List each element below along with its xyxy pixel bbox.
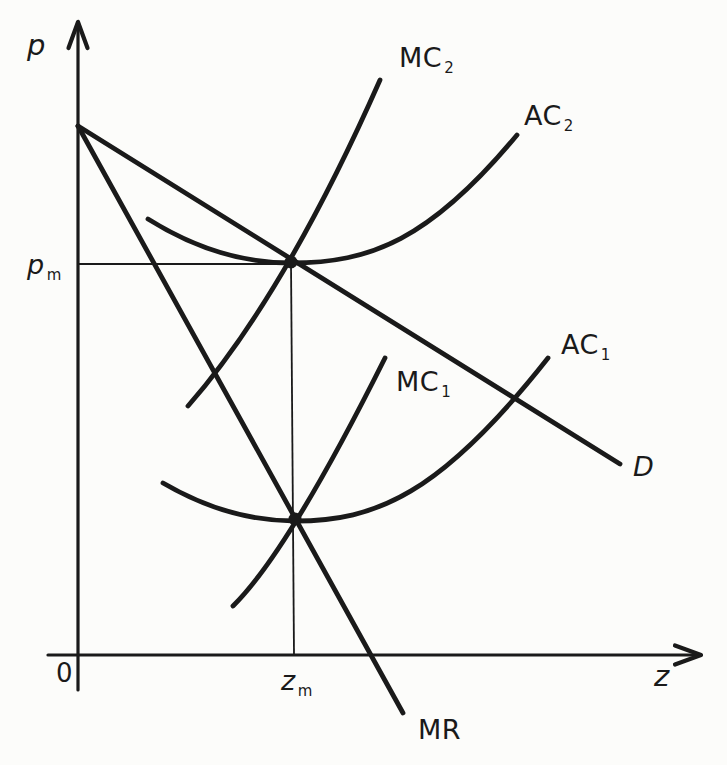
ac1-curve-label: AC1 [561,331,610,363]
curve-d [78,126,620,464]
pm-tick-label: pm [27,251,61,283]
mr-curve-label: MR [418,716,461,743]
origin-label: 0 [56,660,73,686]
guide-zm-quantity-line [291,263,294,655]
zm-tick-label: zm [281,667,312,699]
curve-ac2 [148,135,517,263]
curve-mc2 [188,80,380,406]
figure-canvas [0,0,727,765]
economics-figure: p z 0 pm zm MC2 AC2 MC1 AC1 D MR [0,0,727,765]
point-lower-tangency [289,513,302,526]
ac2-curve-label: AC2 [524,102,573,134]
curve-mc1 [233,358,385,606]
x-axis-label: z [654,662,670,691]
mc2-curve-label: MC2 [399,44,454,76]
mc1-curve-label: MC1 [396,368,451,400]
y-axis-label: p [27,31,46,60]
demand-curve-label: D [633,453,654,480]
point-upper-tangency [285,256,298,269]
